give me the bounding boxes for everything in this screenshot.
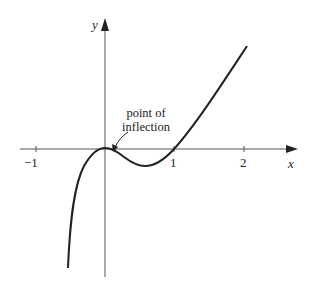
annotation-line1: point of (118, 106, 174, 120)
tick-label-1: 1 (170, 156, 177, 169)
y-axis-label: y (92, 18, 98, 31)
tick-label-neg1: −1 (24, 156, 38, 169)
inflection-annotation: point of inflection (118, 106, 174, 134)
graph-canvas (0, 0, 313, 300)
tick-label-2: 2 (240, 156, 247, 169)
y-axis-arrow-icon (101, 18, 109, 31)
x-axis-arrow-icon (286, 145, 298, 153)
annotation-line2: inflection (118, 120, 174, 134)
pointer-line (115, 132, 128, 147)
x-axis-label: x (288, 157, 294, 170)
cubic-curve (68, 46, 247, 268)
